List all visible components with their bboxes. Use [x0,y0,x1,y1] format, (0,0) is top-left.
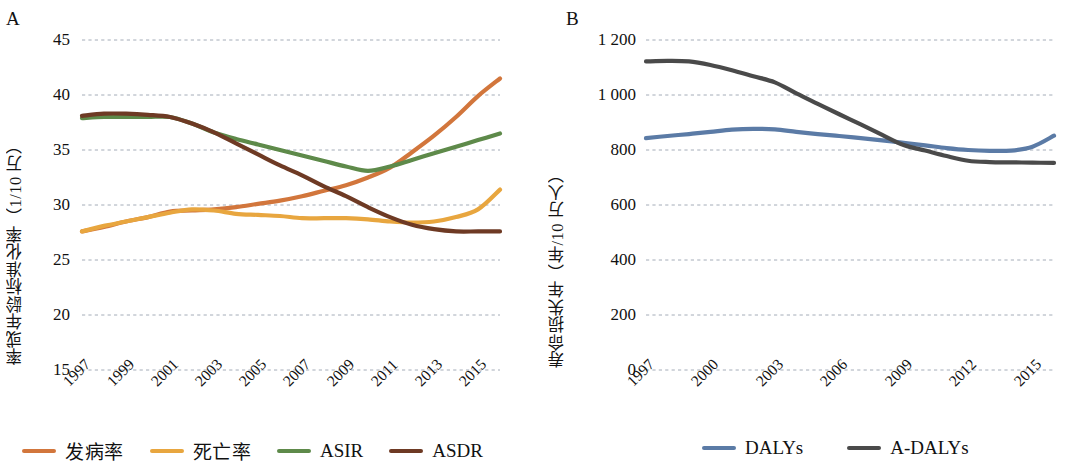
legend-swatch-icon [150,449,184,453]
figure-container: A 率或年龄标准化率（1/10 万） 15 20 25 30 35 40 45 … [0,0,1068,470]
legend-label: 死亡率 [193,437,252,464]
series-line-A-DALYs [646,61,1054,163]
legend-swatch-icon [847,446,881,450]
panel-b-ytick: 200 [570,306,636,323]
panel-b: B 寿命损失年（年/10 万人） 0 200 400 600 800 1 000… [534,0,1068,470]
panel-b-plot-area [646,40,1054,370]
legend-item-ASDR[interactable]: ASDR [389,440,483,462]
legend-item-A-DALYs[interactable]: A-DALYs [847,437,968,459]
panel-a-plot-area [82,40,500,370]
panel-b-ytick: 1 000 [570,86,636,103]
series-line-ASIR [82,117,500,171]
legend-swatch-icon [389,449,423,453]
panel-a-ytick: 25 [34,251,70,268]
panel-a-ytick: 35 [34,141,70,158]
panel-a-letter: A [6,8,20,30]
panel-b-letter: B [566,8,579,30]
legend-item-ASIR[interactable]: ASIR [277,440,363,462]
legend-label: ASIR [320,440,363,462]
series-line-发病率 [82,79,500,232]
panel-a-ytick: 30 [34,196,70,213]
legend-item-DALYs[interactable]: DALYs [702,437,803,459]
panel-b-ytick: 1 200 [570,31,636,48]
panel-b-ytick: 600 [570,196,636,213]
panel-b-ytick: 800 [570,141,636,158]
panel-a-y-axis-label: 率或年龄标准化率（1/10 万） [4,55,28,365]
legend-swatch-icon [702,446,736,450]
legend-label: A-DALYs [890,437,968,459]
legend-label: DALYs [745,437,803,459]
panel-a: A 率或年龄标准化率（1/10 万） 15 20 25 30 35 40 45 … [0,0,534,470]
panel-b-ytick: 400 [570,251,636,268]
legend-item-死亡率[interactable]: 死亡率 [150,437,252,464]
legend-item-发病率[interactable]: 发病率 [22,437,124,464]
series-line-DALYs [646,129,1054,151]
panel-a-ytick: 40 [34,86,70,103]
panel-a-ytick: 20 [34,306,70,323]
series-line-死亡率 [82,190,500,232]
panel-a-legend: 发病率死亡率ASIRASDR [22,437,483,464]
panel-b-y-axis-label: 寿命损失年（年/10 万人） [546,118,570,368]
legend-label: 发病率 [65,437,124,464]
panel-b-legend: DALYsA-DALYs [702,437,969,459]
legend-swatch-icon [277,449,311,453]
panel-a-ytick: 45 [34,31,70,48]
legend-swatch-icon [22,449,56,453]
legend-label: ASDR [432,440,483,462]
